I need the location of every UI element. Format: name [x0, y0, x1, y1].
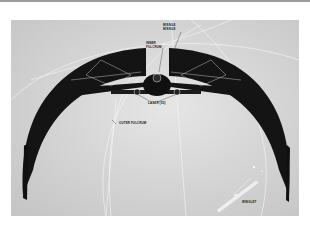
ship-drawing: [11, 20, 299, 216]
label-outer-fulcrum: OUTER FULCRUM: [119, 122, 146, 125]
right-wing: [169, 48, 289, 195]
label-inner-fulcrum-line2: FULCRUM: [146, 46, 162, 49]
label-lasers: LASER (X2): [148, 102, 166, 105]
label-missile-line2: MISSILE: [163, 28, 176, 31]
winglet-part: [216, 166, 263, 213]
top-border-rule: [0, 0, 310, 2]
label-winglet: WINGLET: [242, 201, 257, 204]
ship-schematic-image: MISSILE MISSILE INNER FULCRUM LASER (X2)…: [11, 20, 299, 216]
